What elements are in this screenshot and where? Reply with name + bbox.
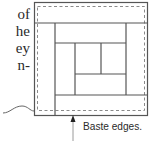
baste-edges-caption: Baste edges.: [83, 120, 142, 132]
fabric-wave-line: [3, 106, 34, 113]
outer-square: [35, 3, 148, 116]
